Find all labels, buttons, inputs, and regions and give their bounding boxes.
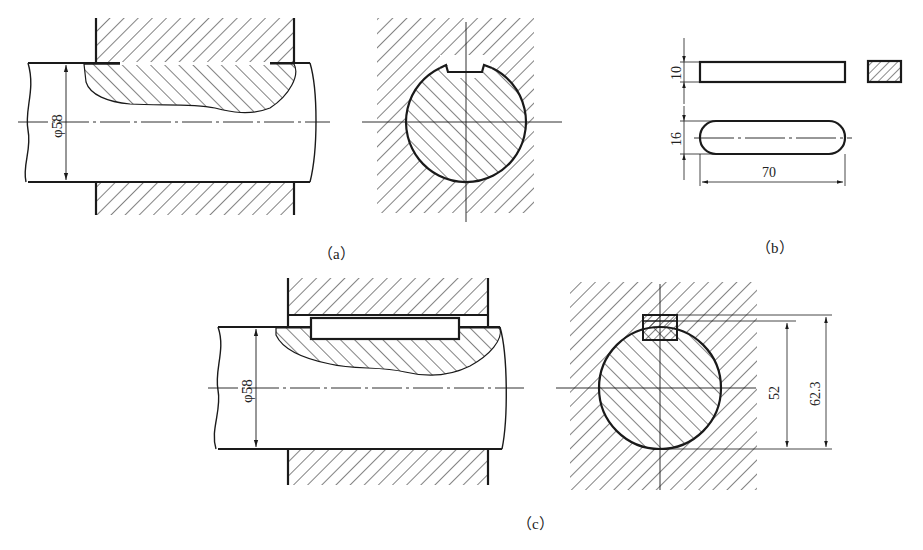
panel-c-cross-section: 52 62.3 bbox=[556, 282, 832, 490]
hub-top-section bbox=[288, 278, 488, 315]
caption-b: （b） bbox=[756, 236, 794, 257]
key-top-view bbox=[700, 121, 845, 154]
shaft-break-left bbox=[25, 63, 31, 182]
hub-bottom-section bbox=[96, 182, 294, 215]
caption-a: （a） bbox=[318, 242, 355, 263]
panel-a-cross-section bbox=[362, 18, 562, 222]
dim-key-width: 16 bbox=[669, 132, 684, 146]
key-installed bbox=[311, 318, 459, 339]
key-side-view bbox=[700, 62, 845, 82]
dim-keyway-52: 52 bbox=[767, 386, 782, 400]
caption-c: （c） bbox=[517, 512, 554, 533]
panel-b-key-views: 10 16 70 bbox=[669, 38, 901, 186]
dim-total-62-3: 62.3 bbox=[808, 382, 823, 407]
key-end-section bbox=[868, 61, 901, 82]
shaft-local-section bbox=[84, 64, 296, 113]
shaft-break-right bbox=[310, 63, 316, 182]
dim-text-diameter: φ58 bbox=[239, 379, 255, 403]
technical-drawing: φ58 10 bbox=[0, 0, 923, 550]
dim-key-length: 70 bbox=[762, 165, 776, 180]
hub-top-section bbox=[96, 18, 294, 63]
dim-text-diameter: φ58 bbox=[49, 114, 65, 138]
dim-key-height: 10 bbox=[669, 66, 684, 80]
panel-c-longitudinal-view: φ58 bbox=[208, 278, 524, 485]
hub-bottom-section bbox=[288, 449, 488, 485]
panel-a-longitudinal-view: φ58 bbox=[18, 18, 330, 215]
